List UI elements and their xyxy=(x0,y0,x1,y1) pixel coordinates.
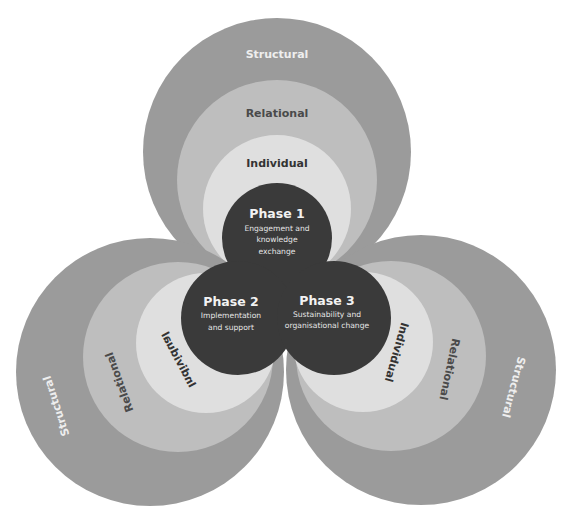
phase-2-desc-line-1: Implementation xyxy=(201,311,261,320)
phase-1-desc-line-3: exchange xyxy=(259,247,296,256)
phase-1-title: Phase 1 xyxy=(249,206,304,221)
phase-1-desc-line-1: Engagement and xyxy=(244,224,309,233)
label-relational-top: Relational xyxy=(246,107,309,120)
label-structural-top: Structural xyxy=(246,48,309,61)
label-individual-top: Individual xyxy=(246,157,307,170)
phase-3-desc-line-2: organisational change xyxy=(285,321,370,330)
phase-3-title: Phase 3 xyxy=(299,293,354,308)
phase-2-desc-line-2: and support xyxy=(208,323,254,332)
phase-2-title: Phase 2 xyxy=(203,294,258,309)
phases-levels-diagram: Structural Relational Individual Structu… xyxy=(0,0,570,512)
phase-1-desc-line-2: knowledge xyxy=(256,235,297,244)
phase-3-desc-line-1: Sustainability and xyxy=(293,310,361,319)
